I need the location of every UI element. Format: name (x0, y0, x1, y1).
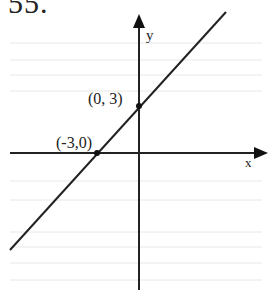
ruled-lines (10, 43, 262, 280)
coordinate-graph: y x (0, 3) (-3,0) (0, 0, 272, 297)
point-label-x-intercept: (-3,0) (56, 134, 92, 152)
point-label-y-intercept: (0, 3) (88, 90, 123, 108)
point-x-intercept (94, 150, 100, 156)
x-axis-label: x (245, 155, 252, 170)
y-axis-arrow-icon (133, 14, 145, 28)
graph-line (10, 12, 226, 250)
y-axis-label: y (146, 27, 154, 43)
x-axis-arrow-icon (254, 147, 268, 159)
point-y-intercept (136, 103, 142, 109)
